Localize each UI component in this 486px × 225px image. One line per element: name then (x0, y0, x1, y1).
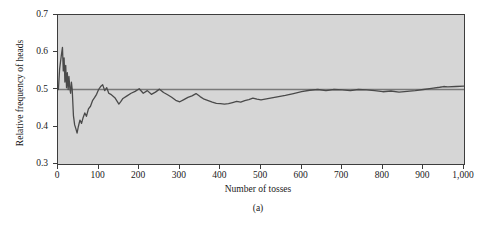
y-tick-label: 0.6 (36, 46, 48, 56)
x-axis-tick-labels: 01002003004005006007008009001,000 (0, 170, 486, 184)
x-tick-mark (57, 164, 58, 169)
figure-caption: (a) (0, 203, 486, 213)
x-tick-mark (463, 164, 464, 169)
x-tick-mark (301, 164, 302, 169)
x-tick-mark (422, 164, 423, 169)
x-tick-label: 900 (415, 170, 429, 180)
x-tick-mark (179, 164, 180, 169)
x-axis-title-text: Number of tosses (195, 184, 292, 194)
x-tick-label: 500 (253, 170, 267, 180)
x-tick-mark (219, 164, 220, 169)
figure-caption-text: (a) (223, 203, 264, 213)
x-tick-mark (341, 164, 342, 169)
x-tick-label: 600 (293, 170, 307, 180)
x-tick-mark (382, 164, 383, 169)
x-tick-mark (98, 164, 99, 169)
x-tick-label: 800 (375, 170, 389, 180)
x-tick-label: 1,000 (452, 170, 473, 180)
plot-area (57, 14, 465, 165)
y-tick-label: 0.5 (36, 84, 48, 94)
y-tick-label: 0.4 (36, 121, 48, 131)
x-tick-label: 100 (90, 170, 104, 180)
x-tick-label: 200 (131, 170, 145, 180)
plot-svg (58, 15, 464, 164)
x-tick-label: 400 (212, 170, 226, 180)
x-axis-title: Number of tosses (0, 184, 486, 194)
x-tick-label: 0 (55, 170, 60, 180)
x-tick-mark (138, 164, 139, 169)
x-tick-label: 700 (334, 170, 348, 180)
x-tick-mark (260, 164, 261, 169)
y-tick-label: 0.3 (36, 158, 48, 168)
x-tick-label: 300 (172, 170, 186, 180)
figure-law-of-large-numbers: Relative frequency of heads 0.30.40.50.6… (0, 0, 486, 225)
y-tick-label: 0.7 (36, 9, 48, 19)
